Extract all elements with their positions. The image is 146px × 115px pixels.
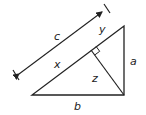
dimension-tick-right bbox=[104, 4, 110, 13]
label-y: y bbox=[98, 23, 106, 36]
label-a: a bbox=[130, 55, 137, 68]
right-triangle bbox=[32, 26, 124, 95]
label-b: b bbox=[74, 100, 81, 113]
dimension-tick-left bbox=[13, 70, 19, 80]
label-z: z bbox=[91, 72, 98, 85]
label-c: c bbox=[54, 30, 60, 43]
triangle-diagram: c y x z a b bbox=[0, 0, 146, 115]
label-x: x bbox=[53, 58, 61, 71]
